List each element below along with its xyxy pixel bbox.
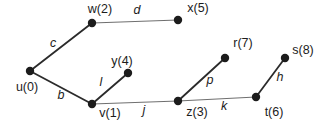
node-r: [221, 54, 229, 62]
edge-label-j: j: [141, 103, 147, 117]
node-label-x: x(5): [187, 1, 209, 15]
node-label-v: v(1): [99, 106, 121, 120]
edge-label-h: h: [277, 70, 284, 84]
edge-v-z: [92, 101, 178, 104]
edge-u-w: [30, 23, 92, 71]
node-label-t: t(6): [265, 105, 284, 119]
node-s: [281, 54, 289, 62]
edge-label-b: b: [58, 88, 65, 102]
node-t: [252, 93, 260, 101]
node-label-s: s(8): [292, 43, 314, 57]
node-label-y: y(4): [111, 54, 133, 68]
node-label-w: w(2): [87, 2, 112, 16]
node-label-r: r(7): [233, 36, 252, 50]
node-z: [174, 97, 182, 105]
node-u: [26, 67, 34, 75]
node-label-z: z(3): [186, 105, 208, 119]
edge-label-p: p: [206, 73, 214, 87]
node-w: [88, 19, 96, 27]
node-y: [124, 69, 132, 77]
node-x: [174, 16, 182, 24]
graph-figure: cdbljpkhu(0)w(2)x(5)y(4)v(1)z(3)t(6)r(7)…: [0, 0, 329, 129]
edge-label-c: c: [50, 36, 57, 50]
edge-label-l: l: [100, 75, 104, 89]
edge-z-r: [178, 58, 225, 101]
node-label-u: u(0): [16, 80, 38, 94]
edge-label-k: k: [221, 99, 228, 113]
edge-label-d: d: [134, 3, 142, 17]
edge-w-x: [92, 20, 178, 23]
edge-v-y: [92, 73, 128, 104]
node-v: [88, 100, 96, 108]
edge-z-t: [178, 97, 256, 101]
graph-diagram: cdbljpkhu(0)w(2)x(5)y(4)v(1)z(3)t(6)r(7)…: [0, 0, 329, 129]
